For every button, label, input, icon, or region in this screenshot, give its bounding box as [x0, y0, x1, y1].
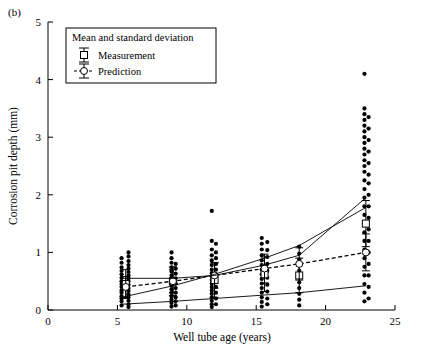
x-tick-label: 5	[115, 315, 121, 327]
chart-legend: Mean and standard deviation Measurement …	[66, 28, 216, 83]
figure-panel-b: (b) 0510152025 012345 Well tube age (yea…	[0, 0, 422, 356]
corrosion-pit-depth-scatter-chart: 0510152025 012345 Well tube age (years) …	[0, 0, 422, 356]
x-tick-label: 20	[320, 315, 332, 327]
legend-title: Mean and standard deviation	[72, 32, 194, 43]
y-axis-ticks: 012345	[36, 16, 54, 316]
x-tick-label: 10	[181, 315, 193, 327]
x-tick-label: 0	[45, 315, 51, 327]
y-tick-label: 2	[36, 189, 42, 201]
legend-entry-prediction: Prediction	[74, 64, 142, 78]
x-tick-label: 15	[251, 315, 263, 327]
series-measurement	[119, 72, 370, 309]
y-tick-label: 1	[36, 246, 42, 258]
legend-label-prediction: Prediction	[98, 66, 142, 77]
y-tick-label: 4	[36, 74, 42, 86]
series-prediction-lower-bound	[122, 286, 366, 304]
series-prediction-mean-sd	[122, 234, 370, 297]
x-axis-ticks: 0510152025	[45, 305, 401, 327]
series-measurement-mean-sd	[122, 201, 370, 299]
data-series-layer	[119, 72, 370, 309]
open-square-marker-icon	[81, 52, 88, 59]
legend-label-measurement: Measurement	[98, 50, 155, 61]
x-tick-label: 25	[390, 315, 402, 327]
y-tick-label: 0	[36, 304, 42, 316]
open-circle-marker-icon	[81, 68, 88, 75]
series-measurement-upper-envelope	[122, 198, 366, 279]
x-axis-title: Well tube age (years)	[173, 331, 271, 344]
y-tick-label: 5	[36, 16, 42, 28]
series-prediction-upper-bound	[122, 207, 366, 297]
y-tick-label: 3	[36, 131, 42, 143]
y-axis-title: Corrosion pit depth (mm)	[7, 107, 20, 225]
